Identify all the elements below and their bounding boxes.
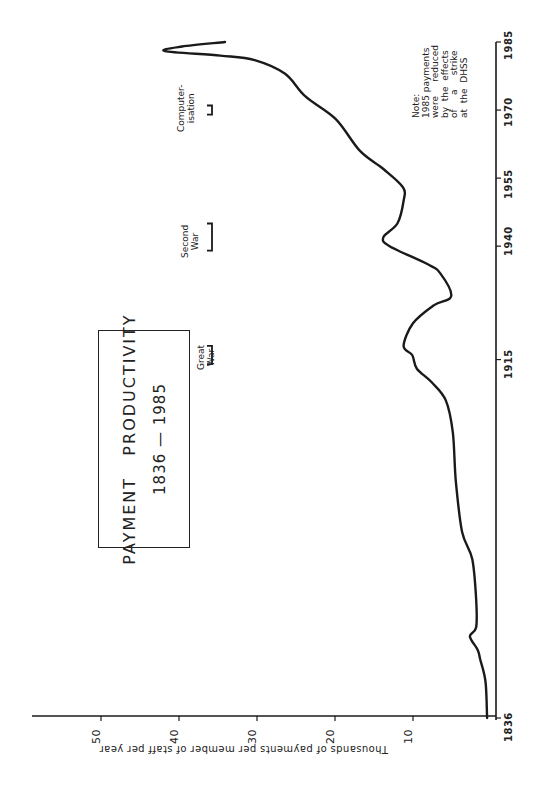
value-tick-20: 20 xyxy=(324,729,337,744)
year-tick-1955: 1955 xyxy=(503,169,514,199)
year-tick-1836: 1836 xyxy=(503,712,514,742)
event-bracket xyxy=(207,223,212,250)
year-tick-1970: 1970 xyxy=(503,97,514,127)
value-tick-50: 50 xyxy=(90,729,103,744)
strike-note: Note: 1985 payments were reduced by the … xyxy=(412,45,469,118)
annotation-computerisation-line1: Computer- xyxy=(176,85,186,132)
year-tick-1985: 1985 xyxy=(503,30,514,60)
chart-subtitle: 1836 — 1985 xyxy=(151,383,169,495)
annotation-great-war-line1: Great xyxy=(196,345,206,370)
productivity-line xyxy=(163,42,487,718)
note-line-6: at the DHSS xyxy=(460,45,470,118)
value-axis-title: Thousands of payments per member of staf… xyxy=(128,744,388,755)
value-tick-10: 10 xyxy=(402,729,415,744)
year-tick-1915: 1915 xyxy=(503,349,514,379)
event-bracket xyxy=(207,106,212,115)
chart-title-box: PAYMENT PRODUCTIVITY 1836 — 1985 xyxy=(98,330,190,548)
annotation-computerisation: Computer- isation xyxy=(176,85,196,132)
annotation-great-war-line2: War xyxy=(206,345,216,370)
annotation-second-war: Second War xyxy=(180,225,200,258)
value-tick-40: 40 xyxy=(168,729,181,744)
annotation-computerisation-line2: isation xyxy=(186,85,196,132)
chart-canvas xyxy=(0,0,540,800)
annotation-great-war: Great War xyxy=(196,345,216,370)
year-tick-1940: 1940 xyxy=(503,226,514,256)
annotation-second-war-line1: Second xyxy=(180,225,190,258)
chart-title: PAYMENT PRODUCTIVITY xyxy=(120,313,139,564)
event-brackets xyxy=(207,106,212,365)
value-tick-30: 30 xyxy=(246,729,259,744)
annotation-second-war-line2: War xyxy=(190,225,200,258)
